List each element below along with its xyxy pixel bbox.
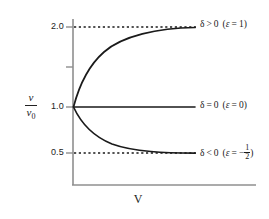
delta-symbol-negative: δ bbox=[200, 148, 204, 158]
delta-symbol-positive: δ bbox=[200, 19, 204, 29]
zero-positive: 0 bbox=[214, 19, 219, 29]
y-axis-denominator: v0 bbox=[24, 106, 39, 122]
y-axis-title: v v0 bbox=[12, 92, 50, 121]
curve-delta-negative bbox=[74, 107, 196, 153]
figure-container: 2.0 1.0 0.5 v v0 V δ>0(ε=1) δ=0(ε=0) δ<0… bbox=[0, 0, 269, 219]
epsilon-symbol-negative: ε bbox=[226, 148, 230, 158]
annotation-delta-zero: δ=0(ε=0) bbox=[200, 100, 247, 110]
y-axis-fraction: v v0 bbox=[24, 92, 39, 121]
zero-zero: 0 bbox=[214, 100, 219, 110]
relation-positive: > bbox=[206, 19, 211, 29]
y-axis-numerator: v bbox=[24, 92, 39, 105]
equals-positive: = bbox=[232, 19, 237, 29]
annotation-delta-negative: δ<0(ε=−12) bbox=[200, 145, 253, 162]
fraction-denominator-negative: 2 bbox=[244, 153, 250, 161]
y-axis-denominator-subscript: 0 bbox=[31, 112, 35, 121]
y-tick-label-2-0: 2.0 bbox=[34, 21, 64, 31]
y-tick-label-0-5: 0.5 bbox=[34, 147, 64, 157]
paren-close-positive: ) bbox=[244, 19, 247, 29]
paren-close-zero: ) bbox=[244, 100, 247, 110]
epsilon-symbol-zero: ε bbox=[226, 100, 230, 110]
zero-negative: 0 bbox=[214, 148, 219, 158]
annotation-delta-positive: δ>0(ε=1) bbox=[200, 19, 247, 29]
paren-close-negative: ) bbox=[250, 148, 253, 158]
x-axis-title: V bbox=[118, 192, 158, 207]
delta-symbol-zero: δ bbox=[200, 100, 204, 110]
equals-zero: = bbox=[232, 100, 237, 110]
epsilon-value-fraction-negative: 12 bbox=[244, 144, 250, 161]
relation-zero: = bbox=[206, 100, 211, 110]
curve-delta-positive bbox=[74, 28, 196, 108]
fraction-numerator-negative: 1 bbox=[244, 144, 250, 152]
epsilon-symbol-positive: ε bbox=[226, 19, 230, 29]
relation-negative: < bbox=[206, 148, 211, 158]
equals-negative: = bbox=[232, 148, 237, 158]
